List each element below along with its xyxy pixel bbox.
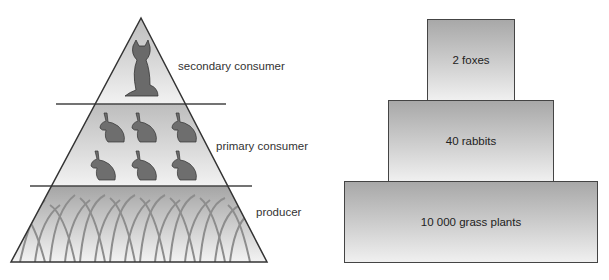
box-grass: 10 000 grass plants bbox=[344, 181, 598, 263]
box-rabbits: 40 rabbits bbox=[388, 100, 554, 182]
box-rabbits-label: 40 rabbits bbox=[446, 135, 497, 147]
level-label-primary-consumer: primary consumer bbox=[216, 140, 308, 152]
box-foxes-label: 2 foxes bbox=[452, 54, 489, 66]
level-label-secondary-consumer: secondary consumer bbox=[178, 60, 285, 72]
box-foxes: 2 foxes bbox=[427, 19, 515, 101]
level-label-producer: producer bbox=[256, 206, 301, 218]
box-grass-label: 10 000 grass plants bbox=[421, 216, 521, 228]
